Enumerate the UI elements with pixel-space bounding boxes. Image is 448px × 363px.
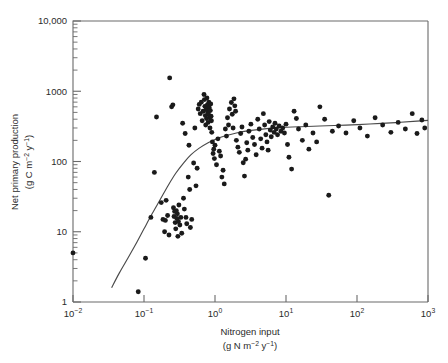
data-point (175, 234, 180, 239)
data-point (289, 167, 294, 172)
y-tick-label: 100 (51, 156, 67, 167)
data-point (222, 181, 227, 186)
y-tick-label: 10,000 (38, 15, 67, 26)
data-point (232, 103, 237, 108)
data-point (211, 151, 216, 156)
data-point (234, 138, 239, 143)
data-point (184, 215, 189, 220)
data-point (257, 127, 262, 132)
data-point (187, 143, 192, 148)
data-point (219, 175, 224, 180)
data-point (212, 156, 217, 161)
data-point (351, 118, 356, 123)
data-point (336, 124, 341, 129)
data-point (177, 222, 182, 227)
data-point (215, 136, 220, 141)
data-point (266, 148, 271, 153)
data-point (225, 115, 230, 120)
data-point (248, 122, 253, 127)
data-point (262, 123, 267, 128)
data-point (181, 196, 186, 201)
data-point (164, 198, 169, 203)
data-point (162, 229, 167, 234)
data-point (163, 218, 168, 223)
data-point (231, 126, 236, 131)
data-point (282, 130, 287, 135)
data-point (218, 153, 223, 158)
data-point (260, 146, 265, 151)
data-point (167, 75, 172, 80)
data-point (180, 121, 185, 126)
data-point (294, 116, 299, 121)
data-point (373, 115, 378, 120)
data-point (284, 122, 289, 127)
data-point (292, 109, 297, 114)
data-point (165, 213, 170, 218)
data-point (226, 123, 231, 128)
data-point (183, 131, 188, 136)
data-point (159, 200, 164, 205)
data-point (182, 207, 187, 212)
data-point (388, 130, 393, 135)
data-point (267, 119, 272, 124)
svg-text:Net primary production: Net primary production (9, 114, 20, 210)
data-point (170, 102, 175, 107)
data-point (175, 211, 180, 216)
data-point (184, 221, 189, 226)
data-point (263, 132, 268, 137)
data-point (286, 155, 291, 160)
data-point (188, 225, 193, 230)
data-point (396, 120, 401, 125)
data-point (195, 166, 200, 171)
data-point (419, 118, 424, 123)
data-point (152, 170, 157, 175)
data-point (208, 101, 213, 106)
data-point (213, 143, 218, 148)
data-point (269, 134, 274, 139)
data-point (238, 131, 243, 136)
svg-text:Nitrogen input: Nitrogen input (220, 326, 280, 337)
data-point (71, 250, 76, 255)
data-point (365, 134, 370, 139)
data-point (194, 183, 199, 188)
data-point (275, 132, 280, 137)
data-point (410, 111, 415, 116)
data-point (143, 256, 148, 261)
data-point (192, 126, 197, 131)
data-point (191, 161, 196, 166)
data-point (330, 129, 335, 134)
data-point (178, 215, 183, 220)
figure-container: 10−210−1100101102103 10,0001000100101 Ni… (0, 0, 448, 363)
data-point (224, 134, 229, 139)
data-point (223, 127, 228, 132)
data-point (187, 187, 192, 192)
data-point (176, 203, 181, 208)
data-point (217, 149, 222, 154)
data-point (300, 138, 305, 143)
data-point (317, 104, 322, 109)
data-point (232, 96, 237, 101)
data-point (196, 106, 201, 111)
data-point (221, 168, 226, 173)
data-point (136, 289, 141, 294)
data-point (245, 148, 250, 153)
data-point (273, 121, 278, 126)
y-tick-label: 10 (56, 226, 67, 237)
data-point (209, 114, 214, 119)
data-point (186, 175, 191, 180)
y-tick-label: 1 (62, 296, 67, 307)
data-point (233, 109, 238, 114)
data-point (243, 157, 248, 162)
data-point (261, 111, 266, 116)
data-point (208, 126, 213, 131)
data-point (244, 140, 249, 145)
data-point (285, 142, 290, 147)
data-point (326, 193, 331, 198)
data-point (246, 129, 251, 134)
data-point (227, 106, 232, 111)
data-point (237, 150, 242, 155)
data-point (200, 118, 205, 123)
data-point (258, 136, 263, 141)
data-point (148, 215, 153, 220)
data-point (235, 145, 240, 150)
